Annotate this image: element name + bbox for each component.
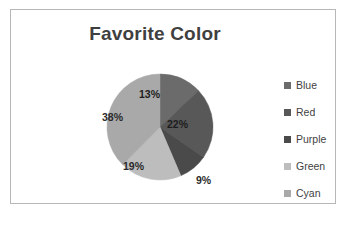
legend-item-purple[interactable]: Purple: [284, 132, 340, 147]
pie-label-green: 19%: [123, 160, 144, 172]
legend-item-cyan[interactable]: Cyan: [284, 186, 340, 201]
legend-swatch-purple: [284, 136, 291, 143]
legend-label-blue: Blue: [296, 80, 317, 91]
legend-swatch-green: [284, 163, 291, 170]
legend-swatch-cyan: [284, 190, 291, 197]
pie-label-purple: 9%: [196, 174, 211, 186]
chart-legend: BlueRedPurpleGreenCyan: [284, 78, 340, 213]
legend-item-red[interactable]: Red: [284, 105, 340, 120]
legend-label-cyan: Cyan: [296, 188, 321, 199]
legend-item-green[interactable]: Green: [284, 159, 340, 174]
pie-label-red: 22%: [167, 118, 188, 130]
pie-slices-svg: [95, 62, 225, 192]
legend-label-purple: Purple: [296, 134, 326, 145]
pie-chart: 13%22%9%19%38%: [95, 62, 225, 192]
legend-label-green: Green: [296, 161, 325, 172]
chart-container: Favorite Color 13%22%9%19%38% BlueRedPur…: [0, 0, 362, 227]
pie-label-blue: 13%: [139, 88, 160, 100]
legend-swatch-blue: [284, 82, 291, 89]
legend-item-blue[interactable]: Blue: [284, 78, 340, 93]
pie-label-cyan: 38%: [102, 111, 123, 123]
legend-swatch-red: [284, 109, 291, 116]
legend-label-red: Red: [296, 107, 315, 118]
chart-title: Favorite Color: [20, 23, 290, 45]
